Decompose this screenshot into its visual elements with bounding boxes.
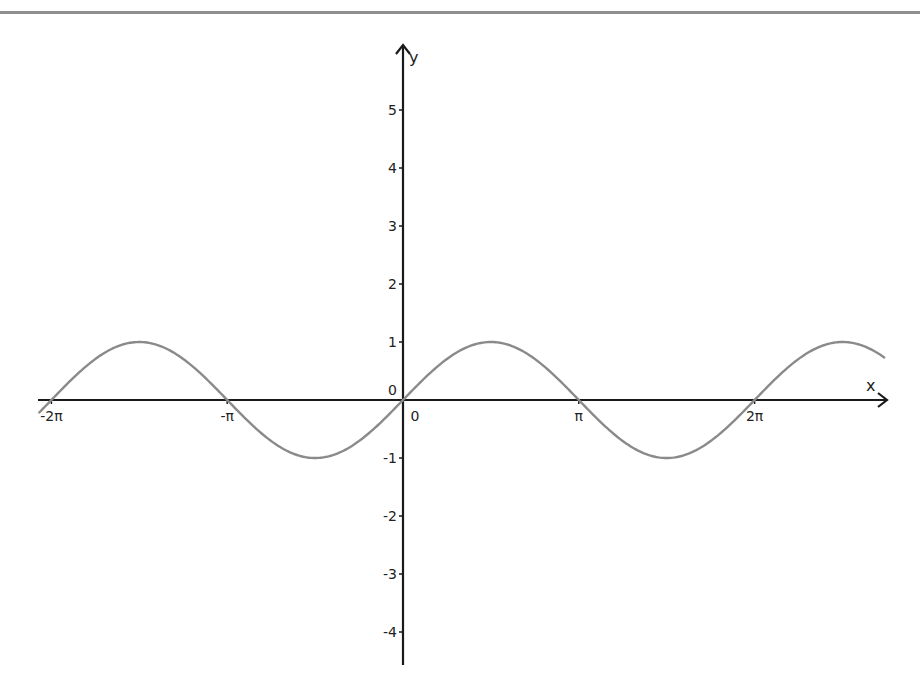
y-axis-label: y <box>409 48 418 67</box>
x-tick-label: π <box>575 408 584 424</box>
y-tick-label: -3 <box>383 566 397 582</box>
y-tick-label: 2 <box>388 276 397 292</box>
y-tick-label: -4 <box>383 624 397 640</box>
y-origin-label: 0 <box>388 382 397 398</box>
x-tick-label: 2π <box>746 408 764 424</box>
y-tick-label: 5 <box>388 102 397 118</box>
y-tick-label: -2 <box>383 508 397 524</box>
x-tick-label: -2π <box>40 408 63 424</box>
y-tick-label: 4 <box>388 160 397 176</box>
plot-area: xy543210-1-2-3-4-2π-π0π2π <box>0 0 920 698</box>
tick-labels: xy543210-1-2-3-4-2π-π0π2π <box>40 48 875 640</box>
y-tick-label: -1 <box>383 450 397 466</box>
axes <box>38 45 887 665</box>
x-axis-label: x <box>866 376 875 395</box>
x-tick-label: -π <box>220 408 234 424</box>
x-origin-label: 0 <box>411 408 420 424</box>
y-tick-label: 3 <box>388 218 397 234</box>
y-tick-label: 1 <box>388 334 397 350</box>
